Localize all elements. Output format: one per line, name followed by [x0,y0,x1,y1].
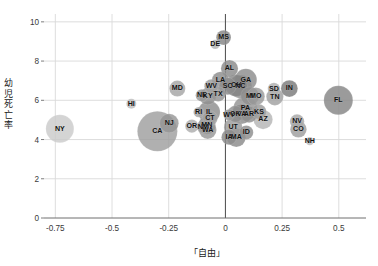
bubble-label-fl: FL [334,96,343,104]
bubble-label-ms: MS [218,33,229,41]
bubble-label-ky: KY [203,92,213,100]
bubble-label-nj: NJ [165,119,174,127]
bubble-label-in: IN [286,84,293,92]
bubble-label-tx: TX [214,90,223,98]
bubble-chart: 幼児死亡率 -0.75-0.5-0.2500.250.50246810 NYHI… [0,0,378,266]
bubble-label-co: CO [293,125,304,133]
bubble-label-ca: CA [152,127,162,135]
bubble-label-ut: UT [228,123,238,131]
bubble-label-al: AL [225,64,235,72]
bubble-label-wv: WV [206,82,218,90]
x-tick-label: -0.25 [159,224,178,233]
bubble-label-or: OR [187,122,198,130]
bubble-label-de: DE [210,40,220,48]
y-tick-label: 4 [34,136,39,145]
x-tick-label: -0.75 [46,224,65,233]
bubble-label-sd: SD [269,85,279,93]
bubble-label-md: MD [172,84,183,92]
y-tick-label: 8 [34,57,39,66]
bubble-label-ri: RI [195,108,202,116]
x-tick-label: 0 [223,224,228,233]
y-tick-label: 2 [34,175,39,184]
x-axis-title: 「自由」 [189,247,225,258]
bubble-label-nc: NC [235,82,245,90]
bubble-label-tn: TN [270,93,279,101]
y-tick-label: 0 [34,214,39,223]
bubble-label-nv: NV [292,117,302,125]
bubble-label-ks: KS [254,108,264,116]
bubble-labels: NYHICANJMDDEMSALLAGAWVSCOHNCNEKYTXMIMOSD… [55,33,343,145]
bubble-label-mo: MO [250,92,262,100]
x-tick-label: -0.5 [105,224,120,233]
bubble-label-ar: AR [244,110,254,118]
bubble-label-ny: NY [55,125,65,133]
bubble-label-hi: HI [128,100,135,108]
bubble-label-az: AZ [258,115,268,123]
x-tick-label: 0.25 [274,224,290,233]
plot-canvas: -0.75-0.5-0.2500.250.50246810 NYHICANJMD… [0,0,378,266]
x-tick-label: 0.5 [333,224,345,233]
bubble-label-ma: MA [231,133,242,141]
bubble-label-nh: NH [305,137,315,145]
y-tick-label: 6 [34,96,39,105]
y-tick-label: 10 [30,18,40,27]
bubble-label-id: ID [243,128,250,136]
bubble-label-wa: WA [202,126,213,134]
